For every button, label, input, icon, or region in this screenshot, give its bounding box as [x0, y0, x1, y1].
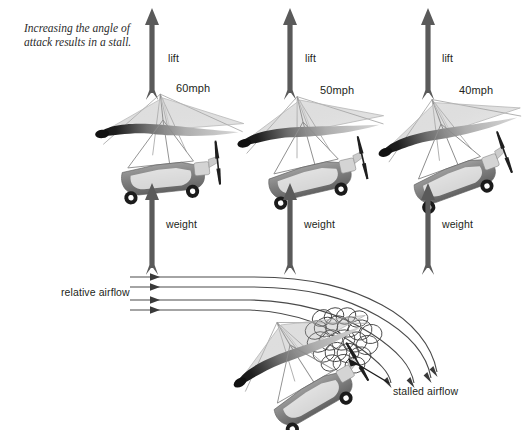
- glider-illustration-3: [367, 72, 527, 223]
- stall-diagram: Increasing the angle of attack results i…: [0, 0, 527, 430]
- weight-arrow-glider-2: [283, 183, 297, 275]
- glider-illustration-2: [230, 79, 399, 216]
- lift-arrow-glider-3: [421, 8, 435, 100]
- glider-illustration-1: [92, 86, 251, 208]
- weight-arrow-glider-1: [145, 183, 159, 275]
- diagram-canvas: [0, 0, 527, 430]
- glider-illustration-stalled: [217, 282, 399, 430]
- weight-arrow-glider-3: [421, 183, 435, 275]
- lift-arrow-glider-1: [145, 8, 159, 100]
- lift-arrow-glider-2: [283, 8, 297, 100]
- glider-group-1: [92, 8, 251, 275]
- stall-panel: [130, 273, 438, 430]
- glider-group-3: [367, 8, 527, 275]
- glider-group-2: [230, 8, 399, 275]
